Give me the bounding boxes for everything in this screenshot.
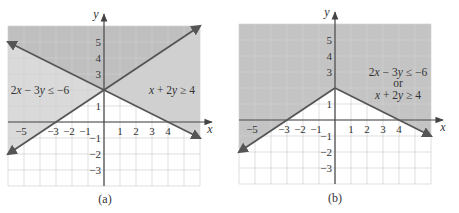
x-tick-label: 3 bbox=[149, 125, 155, 137]
y-tick-label: 1 bbox=[327, 98, 333, 110]
x-tick-label: 2 bbox=[364, 123, 370, 135]
y-tick-label: 3 bbox=[327, 66, 333, 78]
y-tick-label: −1 bbox=[89, 132, 101, 144]
x-tick-label: −3 bbox=[47, 125, 59, 137]
annotation-or-b: or bbox=[393, 77, 403, 89]
y-tick-label: −2 bbox=[320, 146, 332, 158]
x-tick-label: 4 bbox=[396, 123, 402, 135]
caption-a: (a) bbox=[98, 192, 111, 206]
plot-area-a: −5−3−2−112345431−1−2−3 bbox=[8, 14, 212, 186]
y-tick-label: 5 bbox=[96, 36, 102, 48]
y-tick-label: 3 bbox=[96, 68, 102, 80]
y-tick-label: −3 bbox=[89, 164, 101, 176]
x-axis-label-a: x bbox=[206, 122, 213, 136]
y-tick-label: −3 bbox=[320, 162, 332, 174]
x-axis-label-b: x bbox=[439, 120, 446, 134]
x-tick-label: 4 bbox=[165, 125, 171, 137]
y-tick-label: 5 bbox=[327, 34, 333, 46]
x-tick-label: 1 bbox=[348, 123, 354, 135]
y-tick-label: −1 bbox=[320, 130, 332, 142]
x-tick-label: 3 bbox=[380, 123, 386, 135]
y-tick-label: 4 bbox=[327, 50, 333, 62]
x-tick-label: −5 bbox=[246, 123, 258, 135]
caption-b: (b) bbox=[328, 191, 342, 205]
x-tick-label: 1 bbox=[117, 125, 123, 137]
y-axis-label-b: y bbox=[323, 5, 330, 19]
x-tick-label: −2 bbox=[294, 123, 306, 135]
x-tick-label: −5 bbox=[15, 125, 27, 137]
y-tick-label: 4 bbox=[96, 52, 102, 64]
inequality-graphs-figure: −5−3−2−112345431−1−2−3 y x 2x − 3y ≤ −6 … bbox=[0, 0, 459, 213]
x-tick-label: −3 bbox=[278, 123, 290, 135]
x-tick-label: −2 bbox=[63, 125, 75, 137]
annotation-inequality-1-a: 2x − 3y ≤ −6 bbox=[11, 84, 70, 97]
annotation-inequality-2-a: x + 2y ≥ 4 bbox=[148, 84, 195, 97]
x-tick-label: 2 bbox=[133, 125, 139, 137]
y-axis-label-a: y bbox=[92, 7, 99, 21]
panel-a: −5−3−2−112345431−1−2−3 y x 2x − 3y ≤ −6 … bbox=[8, 7, 213, 206]
y-tick-label: 1 bbox=[96, 100, 102, 112]
panel-b: −5−3−2−112345431−1−2−3 y x 2x − 3y ≤ −6 … bbox=[239, 5, 446, 205]
y-tick-label: −2 bbox=[89, 148, 101, 160]
annotation-inequality-2-b: x + 2y ≥ 4 bbox=[374, 89, 421, 102]
